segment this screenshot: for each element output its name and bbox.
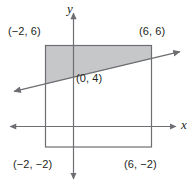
figure-canvas: (−2, 6) (6, 6) (−2, −2) (6, −2) (0, 4) x…	[0, 0, 193, 183]
y-intercept-label: (0, 4)	[76, 73, 102, 84]
x-axis-label: x	[181, 118, 187, 131]
vertex-label-top-right: (6, 6)	[139, 26, 165, 37]
vertex-label-bottom-right: (6, −2)	[124, 159, 157, 170]
vertex-label-top-left: (−2, 6)	[8, 26, 41, 37]
y-axis-label: y	[67, 2, 73, 15]
vertex-label-bottom-left: (−2, −2)	[13, 159, 52, 170]
